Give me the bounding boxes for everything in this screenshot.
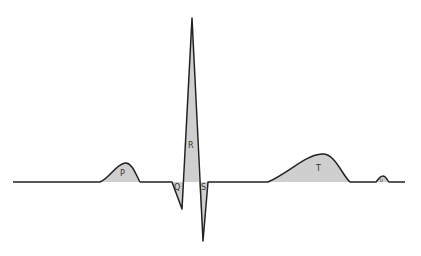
q-label: Q xyxy=(174,183,180,192)
ecg-diagram: P Q R S T U xyxy=(0,0,421,256)
t-label: T xyxy=(315,164,321,173)
p-label: P xyxy=(120,169,125,178)
ecg-trace xyxy=(13,18,405,241)
r-label: R xyxy=(188,141,194,150)
u-label: U xyxy=(380,178,383,183)
ecg-waveform: P Q R S T U xyxy=(0,0,421,256)
s-label: S xyxy=(201,183,206,192)
